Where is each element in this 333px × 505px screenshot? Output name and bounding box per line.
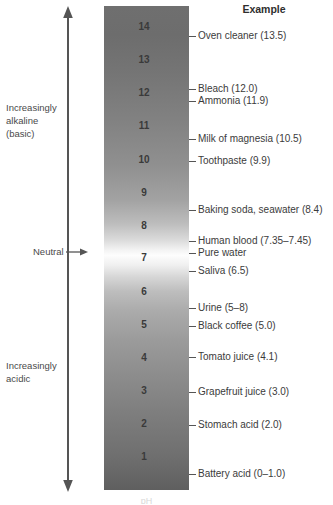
ph-tick-3: 3 [130, 385, 158, 396]
ph-tick-10: 10 [130, 154, 158, 165]
tick-mark-icon [189, 474, 196, 475]
example-label: Pure water [198, 247, 246, 259]
example-entry-human-blood: Human blood (7.35–7.45) [189, 235, 311, 247]
example-entry-battery-acid: Battery acid (0–1.0) [189, 468, 285, 480]
example-label: Stomach acid (2.0) [198, 419, 282, 431]
example-entry-ammonia: Ammonia (11.9) [189, 95, 268, 107]
example-label: Saliva (6.5) [198, 265, 249, 277]
label-acidic-line-1: Increasingly [6, 359, 60, 372]
ph-tick-2: 2 [130, 418, 158, 429]
tick-mark-icon [189, 253, 196, 254]
tick-mark-icon [189, 210, 196, 211]
ph-tick-14: 14 [130, 21, 158, 32]
example-entry-toothpaste: Toothpaste (9.9) [189, 155, 270, 167]
example-label: Oven cleaner (13.5) [198, 30, 286, 42]
ph-gradient-scale-bar: 14 13 12 11 10 9 8 7 6 5 4 3 2 1 [104, 6, 189, 490]
label-alkaline-line-1: Increasingly [6, 101, 60, 114]
ph-tick-9: 9 [130, 187, 158, 198]
ph-tick-5: 5 [130, 319, 158, 330]
example-entry-bleach: Bleach (12.0) [189, 83, 257, 95]
ph-tick-13: 13 [130, 54, 158, 65]
ph-tick-8: 8 [130, 220, 158, 231]
example-label: Baking soda, seawater (8.4) [198, 204, 323, 216]
example-entry-oven-cleaner: Oven cleaner (13.5) [189, 30, 286, 42]
tick-mark-icon [189, 392, 196, 393]
label-alkaline-line-2: alkaline [6, 114, 60, 127]
tick-mark-icon [189, 425, 196, 426]
example-entry-pure-water: Pure water [189, 247, 246, 259]
ph-tick-12: 12 [130, 87, 158, 98]
tick-mark-icon [189, 139, 196, 140]
example-column-header: Example [198, 3, 330, 15]
ph-tick-11: 11 [130, 120, 158, 131]
example-label: Black coffee (5.0) [198, 320, 276, 332]
example-label: Human blood (7.35–7.45) [198, 235, 311, 247]
example-label: Bleach (12.0) [198, 83, 257, 95]
example-entry-stomach-acid: Stomach acid (2.0) [189, 419, 282, 431]
example-entry-black-coffee: Black coffee (5.0) [189, 320, 276, 332]
label-acidic-line-2: acidic [6, 372, 60, 385]
example-entry-milk-of-magnesia: Milk of magnesia (10.5) [189, 133, 302, 145]
example-entry-tomato-juice: Tomato juice (4.1) [189, 351, 277, 363]
example-label: Toothpaste (9.9) [198, 155, 270, 167]
example-label: Milk of magnesia (10.5) [198, 133, 302, 145]
example-label: Urine (5–8) [198, 302, 248, 314]
neutral-callout: Neutral [33, 245, 88, 259]
label-alkaline-line-3: (basic) [6, 127, 60, 140]
tick-mark-icon [189, 326, 196, 327]
tick-mark-icon [189, 89, 196, 90]
tick-mark-icon [189, 161, 196, 162]
example-label: Battery acid (0–1.0) [198, 468, 285, 480]
neutral-arrow-icon [66, 247, 88, 257]
tick-mark-icon [189, 308, 196, 309]
label-increasingly-acidic: Increasingly acidic [6, 359, 60, 385]
example-label: Tomato juice (4.1) [198, 351, 277, 363]
example-entry-urine: Urine (5–8) [189, 302, 248, 314]
example-label: Grapefruit juice (3.0) [198, 386, 289, 398]
tick-mark-icon [189, 271, 196, 272]
example-entry-saliva: Saliva (6.5) [189, 265, 249, 277]
tick-mark-icon [189, 101, 196, 102]
ph-tick-7: 7 [130, 252, 158, 263]
example-entry-baking-soda: Baking soda, seawater (8.4) [189, 204, 323, 216]
label-increasingly-alkaline: Increasingly alkaline (basic) [6, 101, 60, 140]
example-label: Ammonia (11.9) [198, 95, 268, 107]
ph-tick-4: 4 [130, 352, 158, 363]
tick-mark-icon [189, 357, 196, 358]
example-entry-grapefruit-juice: Grapefruit juice (3.0) [189, 386, 289, 398]
ph-tick-1: 1 [130, 451, 158, 462]
neutral-label: Neutral [33, 246, 64, 258]
ph-tick-6: 6 [130, 286, 158, 297]
tick-mark-icon [189, 241, 196, 242]
tick-mark-icon [189, 36, 196, 37]
bottom-caption: pH [104, 496, 189, 504]
